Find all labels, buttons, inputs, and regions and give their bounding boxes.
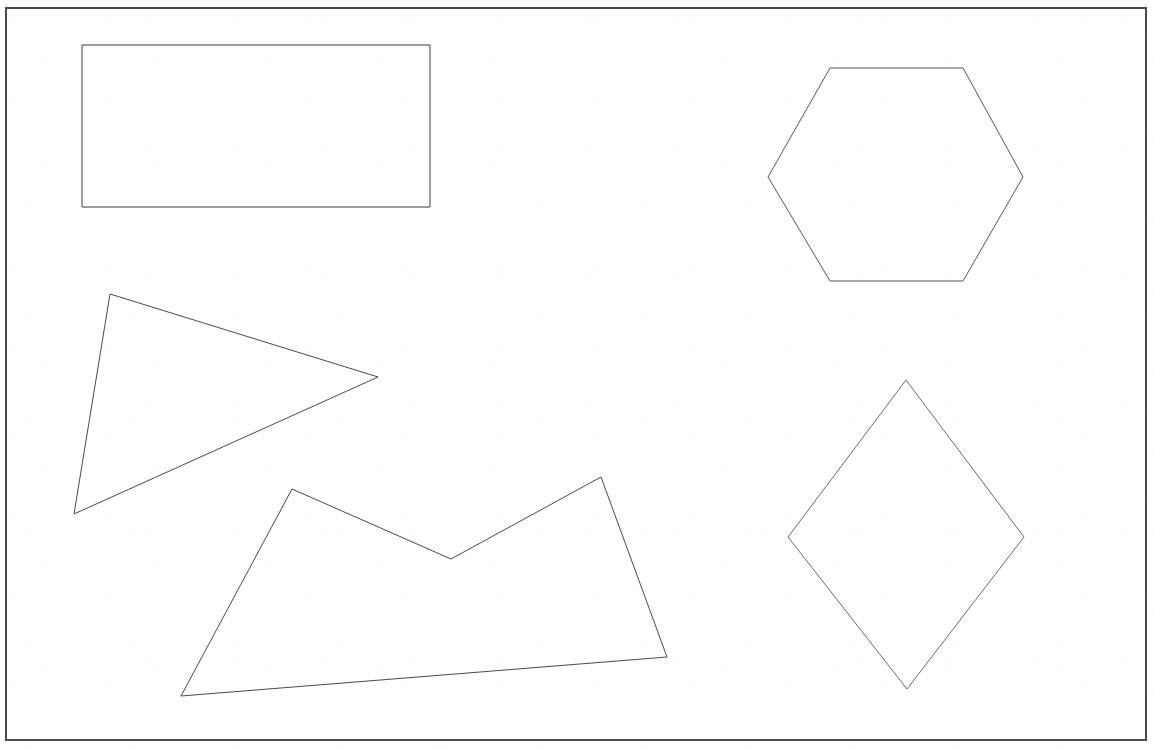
drawing-sheet [0,0,1154,750]
sheet-background [0,0,1154,750]
shapes-canvas [0,0,1154,750]
